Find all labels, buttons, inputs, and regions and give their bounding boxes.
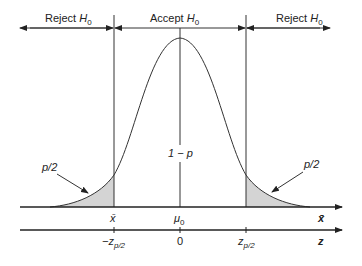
xbar-axis-name: x̄ [317, 212, 325, 224]
reject-left-label: Reject H0 [45, 12, 92, 27]
xbar-tick-label: x̄ [109, 212, 116, 224]
left-tail-shade [50, 175, 114, 207]
acceptance-probability-label: 1 − p [168, 147, 193, 159]
accept-label: Accept H0 [150, 12, 200, 27]
right-tail-label: p/2 [303, 158, 319, 170]
z-zero-label: 0 [177, 235, 183, 247]
z-axis-name: z [317, 235, 324, 247]
left-tail-pointer [57, 174, 88, 193]
mu0-tick-label: μ0 [173, 212, 185, 227]
neg-z-critical-label: −zp/2 [102, 235, 126, 250]
right-tail-pointer [272, 172, 303, 192]
reject-right-label: Reject H0 [276, 12, 323, 27]
hypothesis-test-diagram: Reject H0 Accept H0 Reject H0 1 − p p/2 … [0, 0, 362, 266]
right-tail-shade [246, 175, 310, 207]
pos-z-critical-label: zp/2 [237, 235, 255, 250]
left-tail-label: p/2 [41, 161, 57, 173]
